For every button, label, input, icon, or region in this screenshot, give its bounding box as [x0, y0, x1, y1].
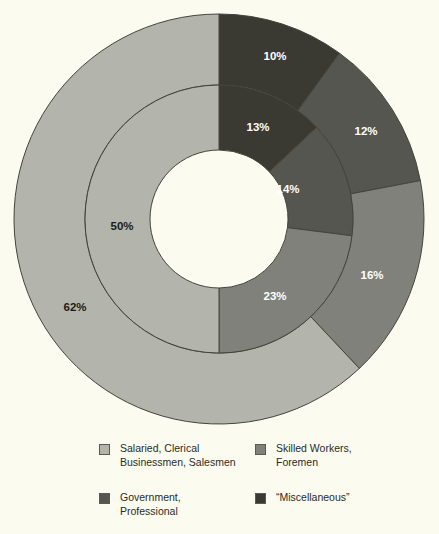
legend-column-right: Skilled Workers, Foremen “Miscellaneous”: [255, 442, 405, 534]
slice-label-outer-62: 62%: [63, 301, 86, 313]
outer-ring-slices: [14, 14, 424, 424]
legend-item-salaried-clerical[interactable]: Salaried, Clerical Businessmen, Salesmen: [99, 442, 249, 472]
chart-legend: Salaried, Clerical Businessmen, Salesmen…: [0, 442, 439, 534]
slice-label-inner-50: 50%: [110, 220, 133, 232]
slice-label-inner-23: 23%: [263, 290, 286, 302]
legend-swatch-icon-miscellaneous: [255, 493, 266, 504]
nested-donut-chart: 10%12%16%62%13%14%23%50%: [0, 0, 439, 440]
slice-label-outer-12: 12%: [354, 125, 377, 137]
legend-item-government-professional[interactable]: Government, Professional: [99, 491, 249, 521]
donut-chart-figure: 10%12%16%62%13%14%23%50% Salaried, Cleri…: [0, 0, 439, 534]
legend-label-government-professional: Government, Professional: [120, 491, 249, 518]
legend-label-salaried-clerical: Salaried, Clerical Businessmen, Salesmen: [120, 442, 249, 469]
inner-ring-slices: [85, 85, 353, 353]
legend-item-skilled-workers-foremen[interactable]: Skilled Workers, Foremen: [255, 442, 405, 472]
legend-item-miscellaneous[interactable]: “Miscellaneous”: [255, 491, 405, 521]
slice-label-inner-13: 13%: [246, 121, 269, 133]
legend-label-miscellaneous: “Miscellaneous”: [276, 491, 405, 505]
legend-swatch-icon-government-professional: [99, 493, 110, 504]
slice-label-outer-16: 16%: [360, 269, 383, 281]
slice-label-outer-10: 10%: [263, 50, 286, 62]
legend-label-skilled-workers-foremen: Skilled Workers, Foremen: [276, 442, 405, 469]
legend-swatch-icon-salaried-clerical: [99, 444, 110, 455]
slice-label-inner-14: 14%: [276, 183, 299, 195]
legend-swatch-icon-skilled-workers-foremen: [255, 444, 266, 455]
legend-column-left: Salaried, Clerical Businessmen, Salesmen…: [99, 442, 249, 534]
